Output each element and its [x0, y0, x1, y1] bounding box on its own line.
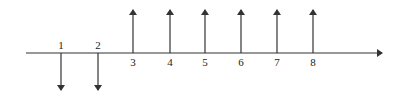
cash-flow-period-2: 2	[95, 39, 101, 90]
cash-flow-period-7: 7	[274, 10, 280, 68]
period-label: 8	[310, 56, 316, 68]
cash-flow-period-4: 4	[167, 10, 173, 68]
cash-flow-period-8: 8	[310, 10, 316, 68]
period-label: 1	[58, 39, 64, 51]
period-label: 6	[238, 56, 244, 68]
period-label: 7	[274, 56, 280, 68]
cash-flow-diagram: 12345678	[0, 0, 394, 98]
cash-flow-period-1: 1	[58, 39, 64, 90]
cash-flow-arrows: 12345678	[58, 10, 316, 90]
cash-flow-period-6: 6	[238, 10, 244, 68]
period-label: 5	[202, 56, 208, 68]
period-label: 2	[95, 39, 101, 51]
period-label: 3	[130, 56, 136, 68]
cash-flow-period-5: 5	[202, 10, 208, 68]
period-label: 4	[167, 56, 173, 68]
cash-flow-period-3: 3	[130, 10, 136, 68]
